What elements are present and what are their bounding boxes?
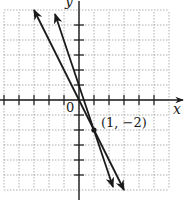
y-axis-label: y xyxy=(64,0,74,9)
point-label: (1, −2) xyxy=(101,115,147,130)
coordinate-plane: 0 (1, −2) x y xyxy=(0,0,185,202)
intersection-point xyxy=(91,127,96,132)
origin-label: 0 xyxy=(66,100,74,115)
x-axis-label: x xyxy=(173,101,181,117)
